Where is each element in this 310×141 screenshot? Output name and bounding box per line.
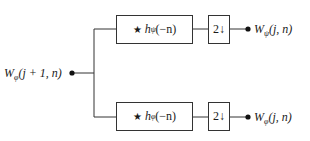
output-bottom-dot <box>245 114 250 119</box>
output-args: (j, n) <box>268 110 291 124</box>
downsampler-box-bottom: 2↓ <box>208 102 230 131</box>
output-W: W <box>254 110 264 124</box>
output-label-top: Wψ(j, n) <box>254 22 292 41</box>
output-args: (j, n) <box>269 22 292 36</box>
filter-args: (−n) <box>156 22 177 37</box>
output-label-bottom: Wφ(j, n) <box>254 110 292 129</box>
filter-args: (−n) <box>155 109 176 124</box>
output-top-dot <box>245 26 250 31</box>
downsampler-box-top: 2↓ <box>208 15 230 44</box>
filter-box-top: ★ hψ(−n) <box>116 15 193 44</box>
convolution-star-icon: ★ <box>133 24 142 35</box>
filter-box-bottom: ★ hφ(−n) <box>116 102 193 131</box>
convolution-star-icon: ★ <box>133 111 142 122</box>
output-W: W <box>254 22 264 36</box>
input-W: W <box>4 66 14 80</box>
input-args: (j + 1, n) <box>18 66 61 80</box>
input-label: Wφ(j + 1, n) <box>4 66 62 85</box>
input-node-dot <box>69 70 74 75</box>
